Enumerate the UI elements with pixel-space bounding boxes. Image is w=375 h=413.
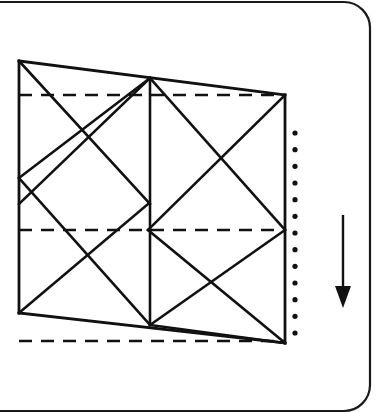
guide-dot (292, 130, 297, 135)
crease-diag-center-to-bottomright (148, 230, 285, 343)
guide-dot (292, 230, 297, 235)
crease-diag-topmid-to-leftmid (19, 78, 150, 178)
guide-dot (292, 297, 297, 302)
dotted-vertical-guide (292, 130, 297, 335)
guide-dot (292, 280, 297, 285)
guide-dot (292, 314, 297, 319)
dashed-fold-lines-group (19, 95, 285, 341)
guide-dot (292, 197, 297, 202)
guide-dot (292, 330, 297, 335)
crease-pattern-diagram (0, 0, 375, 413)
guide-dot (292, 180, 297, 185)
edge-bottom (19, 313, 285, 343)
crease-diag-tl-to-center (19, 61, 150, 204)
crease-diag-topmid-to-center-left (19, 78, 150, 204)
arrow-head-icon (335, 286, 351, 308)
rounded-panel-border (0, 2, 370, 411)
guide-dot (292, 147, 297, 152)
crease-diag-rightmid-to-bottommid (150, 230, 285, 325)
solid-crease-lines-group (19, 61, 285, 343)
guide-dot (292, 247, 297, 252)
crease-diag-leftmid-to-center-down (19, 178, 150, 325)
guide-dot (292, 264, 297, 269)
fold-direction-arrow (335, 215, 351, 308)
crease-diag-center-to-bottomleft (19, 204, 148, 313)
guide-dot (292, 214, 297, 219)
origami-diagram-panel (0, 0, 375, 413)
edge-top (19, 61, 285, 95)
guide-dot (292, 164, 297, 169)
crease-diag-topright-to-center (148, 95, 285, 230)
